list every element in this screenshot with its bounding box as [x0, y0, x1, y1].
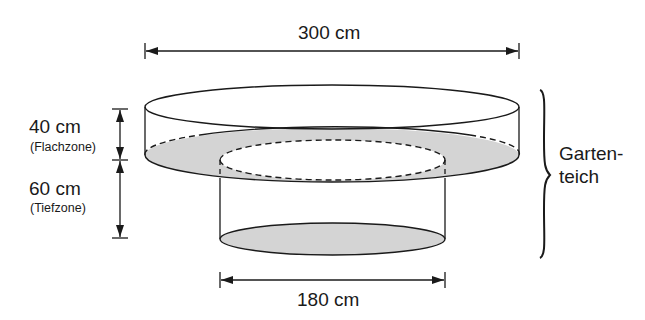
bottom-diameter-label: 180 cm [297, 289, 359, 311]
shallow-zone-label: (Flachzone) [30, 140, 96, 154]
shallow-zone-floor [145, 127, 519, 182]
deep-depth-label: 60 cm [29, 178, 81, 200]
top-dimension-arrow [145, 43, 519, 59]
deep-zone-label: (Tiefzone) [30, 201, 86, 215]
pond-label-line2: teich [559, 166, 599, 188]
bottom-dimension-arrow [220, 272, 445, 288]
shallow-depth-label: 40 cm [29, 116, 81, 138]
deep-zone-floor [220, 223, 445, 255]
water-surface-rim [145, 85, 519, 129]
pond-diagram [0, 0, 645, 320]
depth-dimension-arrows [112, 109, 128, 238]
curly-brace [540, 90, 550, 258]
pond-label-line1: Garten- [559, 143, 623, 165]
top-diameter-label: 300 cm [298, 22, 360, 44]
